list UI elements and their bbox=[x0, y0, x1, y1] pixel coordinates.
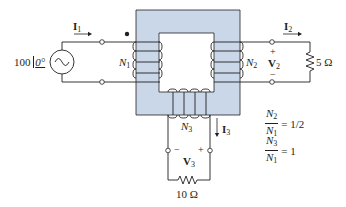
i2-label: I2 bbox=[284, 21, 292, 34]
v3-plus: + bbox=[198, 145, 204, 155]
tertiary-terminal-right bbox=[208, 148, 213, 153]
i1-label: I1 bbox=[73, 21, 81, 34]
secondary-terminal-top bbox=[270, 40, 275, 45]
r3-label: 10 Ω bbox=[176, 189, 198, 200]
v3-minus: − bbox=[174, 145, 180, 155]
n2-label: N2 bbox=[246, 57, 257, 70]
primary-terminal-top bbox=[100, 40, 105, 45]
magnetic-core bbox=[136, 10, 240, 115]
v3-label: V3 bbox=[183, 156, 195, 169]
i3-label: I3 bbox=[222, 124, 230, 137]
v2-plus: + bbox=[270, 47, 276, 57]
ratio-n3-n1: N3 N1 = 1 bbox=[265, 134, 296, 167]
n3-label: N3 bbox=[181, 121, 192, 134]
n1-label: N1 bbox=[119, 57, 130, 70]
ac-source-icon bbox=[50, 50, 74, 74]
source-angle: 0° bbox=[33, 56, 45, 68]
polarity-dot bbox=[125, 32, 129, 36]
v2-minus: − bbox=[270, 70, 276, 80]
source-magnitude: 100 bbox=[14, 56, 31, 68]
secondary-terminal-bottom bbox=[270, 80, 275, 85]
tertiary-terminal-left bbox=[166, 148, 171, 153]
source-label: 100 0° bbox=[14, 57, 45, 68]
r2-label: 5 Ω bbox=[316, 57, 332, 68]
transformer-circuit-diagram bbox=[0, 0, 346, 207]
primary-terminal-bottom bbox=[100, 80, 105, 85]
